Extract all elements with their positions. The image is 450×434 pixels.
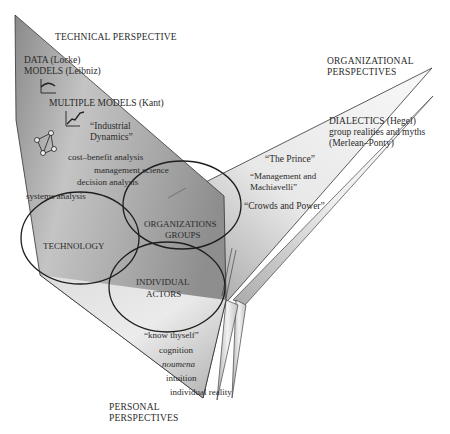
cognition-label: cognition [159,345,193,355]
perspectives-diagram: TECHNICAL PERSPECTIVE DATA (Locke) MODEL… [0,0,450,434]
noumena-label: noumena [162,359,195,369]
decision-analysis-label: decision analysis [77,177,139,187]
crowds-and-power-label: “Crowds and Power” [244,201,325,211]
industrial-dynamics-label-1: “Industrial [90,121,131,131]
management-science-label: management science [94,165,169,175]
groups-label: GROUPS [165,230,201,240]
organizational-title-1: ORGANIZATIONAL [327,56,414,66]
group-realities-label: group realities and myths [329,127,426,137]
the-prince-label: “The Prince” [265,154,315,164]
cost-benefit-label: cost–benefit analysis [68,152,144,162]
personal-title-2: PERSPECTIVES [109,413,178,423]
technical-title: TECHNICAL PERSPECTIVE [55,32,177,42]
data-locke-label: DATA (Locke) [24,55,81,66]
models-leibniz-label: MODELS (Leibniz) [24,66,101,77]
technology-label: TECHNOLOGY [43,241,105,251]
merleau-ponty-label: (Merlean–Ponty) [329,138,394,149]
management-machiavelli-label-2: Machiavelli” [250,182,297,192]
organizational-title-2: PERSPECTIVES [327,67,396,77]
dialectics-hegel-label: DIALECTICS (Hegel) [329,116,416,127]
personal-title-1: PERSONAL [109,402,160,412]
multiple-models-kant-label: MULTIPLE MODELS (Kant) [49,98,164,109]
industrial-dynamics-label-2: Dynamics” [90,132,133,142]
know-thyself-label: “know thyself” [144,330,199,340]
systems-analysis-label: systems analysis [26,191,86,201]
individual-label: INDIVIDUAL [136,277,190,287]
actors-label: ACTORS [146,289,181,299]
management-machiavelli-label-1: “Management and [250,171,317,181]
individual-reality-label: individual reality [170,387,232,397]
organizations-label: ORGANIZATIONS [144,219,217,229]
intuition-label: intuition [166,373,197,383]
